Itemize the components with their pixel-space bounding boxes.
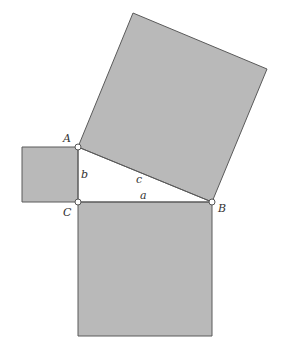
side-a-label: a bbox=[140, 189, 147, 202]
side-b-label: b bbox=[81, 168, 88, 181]
pythagorean-diagram: A C B b c a bbox=[0, 0, 284, 347]
vertex-b-label: B bbox=[217, 202, 226, 215]
vertex-a-label: A bbox=[62, 132, 71, 145]
square-on-a bbox=[78, 202, 212, 336]
vertex-c-point bbox=[75, 199, 81, 205]
vertex-c-label: C bbox=[63, 206, 72, 219]
square-on-c bbox=[78, 13, 267, 202]
vertex-b-point bbox=[209, 199, 215, 205]
side-c-label: c bbox=[136, 173, 142, 186]
square-on-b bbox=[22, 147, 78, 202]
vertex-a-point bbox=[75, 144, 81, 150]
